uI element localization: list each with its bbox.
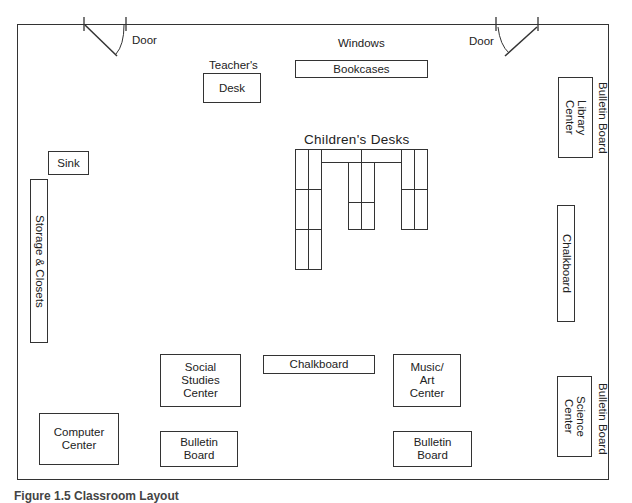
childrens-desks-label: Children's Desks: [304, 133, 410, 146]
windows-label: Windows: [338, 37, 385, 50]
sink: Sink: [48, 151, 89, 175]
computer-center: ComputerCenter: [39, 413, 119, 465]
library-center: LibraryCenter: [558, 77, 593, 158]
teachers-label: Teacher's: [209, 59, 258, 72]
bulletin-board-left-label: BulletinBoard: [180, 436, 218, 462]
social-studies-label: SocialStudiesCenter: [181, 361, 219, 400]
chalkboard-right: Chalkboard: [557, 205, 575, 322]
bulletin-board-left: BulletinBoard: [160, 431, 238, 467]
storage-label: Storage & Closets: [33, 215, 46, 308]
chalkboard-bottom: Chalkboard: [263, 355, 375, 374]
storage-closets: Storage & Closets: [30, 179, 48, 343]
chalkboard-right-label: Chalkboard: [560, 234, 573, 293]
door-label-left: Door: [132, 34, 157, 47]
bulletin-board-right-bottom-box: BulletinBoard: [393, 431, 472, 467]
library-center-label: LibraryCenter: [564, 100, 588, 135]
science-center: ScienceCenter: [557, 376, 592, 457]
teachers-desk: Desk: [203, 73, 261, 103]
chalkboard-bottom-label: Chalkboard: [290, 358, 349, 371]
bulletin-board-right-bottom-label: Bulletin Board: [596, 383, 609, 455]
music-art-center: Music/ArtCenter: [393, 354, 461, 407]
door-label-right: Door: [469, 35, 494, 48]
bookcases: Bookcases: [295, 60, 428, 78]
figure-caption: Figure 1.5 Classroom Layout: [14, 489, 179, 503]
music-art-label: Music/ArtCenter: [410, 361, 445, 400]
teachers-desk-label: Desk: [219, 82, 245, 95]
bulletin-board-right-bottom-box-label: BulletinBoard: [414, 436, 452, 462]
social-studies-center: SocialStudiesCenter: [160, 354, 241, 407]
bookcases-label: Bookcases: [333, 63, 389, 76]
science-center-label: ScienceCenter: [563, 396, 587, 437]
bulletin-board-right-top-label: Bulletin Board: [596, 82, 609, 154]
computer-center-label: ComputerCenter: [54, 426, 105, 452]
sink-label: Sink: [57, 157, 79, 170]
